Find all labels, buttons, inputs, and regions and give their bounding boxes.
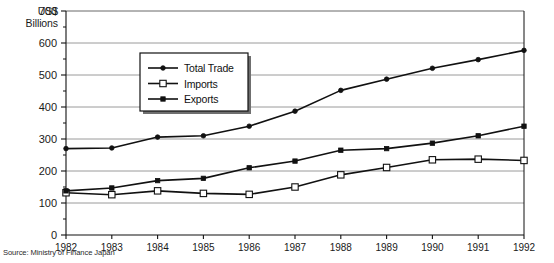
y-axis-title-line-2: Billions xyxy=(4,18,58,30)
data-point-marker-legend-1 xyxy=(160,80,166,86)
data-point-marker-1-4 xyxy=(246,191,252,197)
data-point-marker-2-10 xyxy=(522,124,526,128)
data-point-marker-1-2 xyxy=(154,188,160,194)
x-axis-tick-label: 1984 xyxy=(146,242,169,253)
legend-item-label-0: Total Trade xyxy=(184,62,234,74)
data-point-marker-0-5 xyxy=(293,109,298,114)
y-axis-tick-label: 500 xyxy=(39,69,57,81)
line-chart-plot: 0100200300400500600700198219831984198519… xyxy=(0,0,554,263)
data-point-marker-2-5 xyxy=(293,159,297,163)
x-axis-tick-label: 1989 xyxy=(375,242,398,253)
data-point-marker-0-8 xyxy=(430,66,435,71)
data-point-marker-0-1 xyxy=(110,146,115,151)
legend-item-label-1: Imports xyxy=(184,78,218,90)
data-point-marker-1-6 xyxy=(338,172,344,178)
y-axis-title: US$ Billions xyxy=(4,6,58,29)
x-axis-tick-label: 1985 xyxy=(192,242,215,253)
y-axis-tick-label: 600 xyxy=(39,37,57,49)
series-total-trade xyxy=(64,48,527,151)
x-axis-tick-label: 1988 xyxy=(330,242,353,253)
data-point-marker-0-7 xyxy=(384,77,389,82)
data-point-marker-1-5 xyxy=(292,184,298,190)
x-axis-tick-label: 1992 xyxy=(513,242,536,253)
data-point-marker-1-7 xyxy=(383,164,389,170)
series-exports xyxy=(64,124,526,193)
data-point-marker-0-3 xyxy=(201,134,206,139)
data-point-marker-1-9 xyxy=(475,156,481,162)
data-point-marker-0-4 xyxy=(247,124,252,129)
y-axis-tick-label: 200 xyxy=(39,165,57,177)
y-axis-tick-label: 400 xyxy=(39,101,57,113)
y-axis-tick-label: 100 xyxy=(39,197,57,209)
legend-item-label-2: Exports xyxy=(184,93,218,105)
data-point-marker-legend-2 xyxy=(161,97,165,101)
data-point-marker-0-9 xyxy=(476,57,481,62)
data-point-marker-2-4 xyxy=(247,166,251,170)
data-point-marker-0-6 xyxy=(339,88,344,93)
data-point-marker-2-3 xyxy=(201,176,205,180)
series-line xyxy=(66,50,524,148)
y-axis-tick-label: 300 xyxy=(39,133,57,145)
data-point-marker-1-3 xyxy=(200,190,206,196)
chart-container: US$ Billions 010020030040050060070019821… xyxy=(0,0,554,263)
data-point-marker-2-1 xyxy=(110,186,114,190)
data-point-marker-2-2 xyxy=(155,178,159,182)
data-point-marker-2-9 xyxy=(476,134,480,138)
x-axis-tick-label: 1990 xyxy=(421,242,444,253)
data-point-marker-2-8 xyxy=(430,141,434,145)
data-point-marker-0-10 xyxy=(522,48,527,53)
y-axis-title-line-1: US$ xyxy=(4,6,58,18)
data-point-marker-2-7 xyxy=(384,146,388,150)
data-point-marker-2-6 xyxy=(339,148,343,152)
x-axis-tick-label: 1991 xyxy=(467,242,490,253)
x-axis-tick-label: 1987 xyxy=(284,242,307,253)
data-point-marker-0-0 xyxy=(64,146,69,151)
data-point-marker-0-2 xyxy=(155,135,160,140)
data-point-marker-1-1 xyxy=(109,191,115,197)
data-point-marker-legend-0 xyxy=(161,66,166,71)
chart-legend: Total TradeImportsExports xyxy=(140,53,251,114)
x-axis-tick-label: 1986 xyxy=(238,242,261,253)
data-point-marker-1-10 xyxy=(521,157,527,163)
source-note: Source: Ministry of Finance Japan xyxy=(3,248,115,257)
data-point-marker-1-8 xyxy=(429,157,435,163)
y-axis-tick-label: 0 xyxy=(51,229,57,241)
data-point-marker-2-0 xyxy=(64,189,68,193)
